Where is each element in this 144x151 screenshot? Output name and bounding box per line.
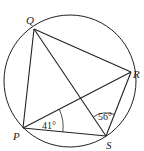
segments bbox=[23, 29, 131, 136]
segment-PQ bbox=[23, 29, 34, 128]
label-R: R bbox=[132, 68, 140, 80]
segment-SP bbox=[23, 128, 106, 136]
angle-label-S: 56° bbox=[98, 111, 112, 122]
angle-label-P: 41° bbox=[42, 120, 56, 131]
angle-arc-P bbox=[59, 109, 63, 132]
segment-PR bbox=[23, 72, 131, 128]
geometry-diagram: Q R P S 41° 56° bbox=[0, 0, 144, 151]
label-S: S bbox=[106, 139, 112, 151]
label-P: P bbox=[12, 130, 20, 142]
label-Q: Q bbox=[26, 14, 34, 26]
